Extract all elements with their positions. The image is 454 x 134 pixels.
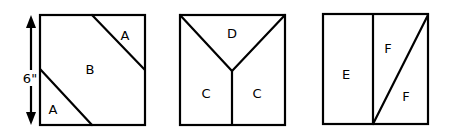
piece-label-f-top: F <box>384 41 391 56</box>
dimension-label: 6" <box>23 71 37 86</box>
arrow-up-icon <box>26 15 36 28</box>
block-1: A B A <box>40 15 145 125</box>
block-1-diagonal-top <box>92 15 145 70</box>
quilt-block-diagram: 6" A B A D C C E F F <box>0 0 454 134</box>
block-3: E F F <box>323 14 428 124</box>
dimension-arrow: 6" <box>22 15 40 125</box>
block-1-diagonal-bottom <box>40 69 92 125</box>
block-3-outline <box>323 14 428 124</box>
piece-label-a-top: A <box>121 28 130 43</box>
block-3-diagonal <box>373 15 428 124</box>
piece-label-c-right: C <box>252 86 261 101</box>
piece-label-b: B <box>86 62 95 77</box>
piece-label-e: E <box>342 67 350 82</box>
piece-label-f-bottom: F <box>402 89 409 104</box>
block-2: D C C <box>180 15 285 125</box>
block-2-diagonal-left <box>180 15 232 71</box>
piece-label-a-bottom: A <box>49 102 58 117</box>
piece-label-c-left: C <box>201 86 210 101</box>
piece-label-d: D <box>227 26 237 41</box>
block-2-diagonal-right <box>232 15 285 71</box>
arrow-down-icon <box>26 112 36 125</box>
